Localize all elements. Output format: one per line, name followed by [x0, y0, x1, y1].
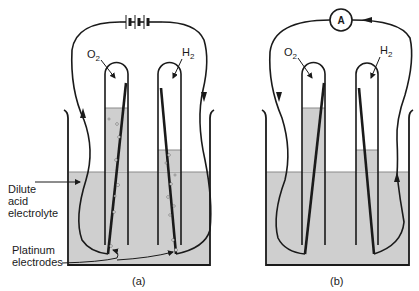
electrolyte-label-line2: acid [8, 195, 28, 207]
caption-b: (b) [330, 275, 343, 287]
h2-label-a: H2 [182, 46, 195, 61]
electrolyte-label-line3: electrolyte [8, 207, 58, 219]
electrolysis-fuel-cell-diagram: O2 H2 Dilute acid electrolyte Platinum e… [0, 0, 419, 291]
panel-a: O2 H2 Dilute acid electrolyte Platinum e… [8, 15, 214, 287]
ammeter-icon: A [330, 9, 352, 31]
h2-label-b: H2 [380, 44, 393, 59]
electrolyte-label-line1: Dilute [8, 183, 36, 195]
ammeter-label: A [337, 15, 344, 26]
caption-a: (a) [132, 275, 145, 287]
o2-tube-liquid-b [302, 108, 325, 172]
battery-icon [120, 15, 162, 29]
panel-b: A O2 H2 (b) [262, 9, 413, 287]
current-arrow-left-b [276, 92, 282, 102]
o2-label-b: O2 [284, 46, 298, 61]
o2-label-a: O2 [87, 48, 101, 63]
electrolyte-fill-b [266, 172, 409, 265]
current-arrow-top-b [362, 17, 372, 23]
electrodes-label-line1: Platinum [12, 244, 55, 256]
electrodes-label-line2: electrodes [12, 256, 63, 268]
